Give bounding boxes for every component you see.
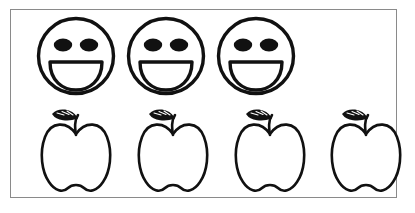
- apple-row: [11, 102, 396, 199]
- smiley-face-item: [212, 14, 300, 98]
- smiley-face-icon: [32, 14, 120, 98]
- smiley-face-icon: [122, 14, 210, 98]
- apple-item: [37, 104, 115, 196]
- apple-item: [134, 104, 212, 196]
- smiley-face-item: [122, 14, 210, 98]
- smiley-face-row: [11, 10, 396, 102]
- apple-icon: [231, 104, 309, 196]
- worksheet-canvas: [0, 0, 415, 213]
- picture-frame: [10, 9, 397, 198]
- smiley-face-item: [32, 14, 120, 98]
- apple-item: [327, 104, 405, 196]
- smiley-face-icon: [212, 14, 300, 98]
- apple-icon: [327, 104, 405, 196]
- apple-item: [231, 104, 309, 196]
- apple-icon: [134, 104, 212, 196]
- apple-icon: [37, 104, 115, 196]
